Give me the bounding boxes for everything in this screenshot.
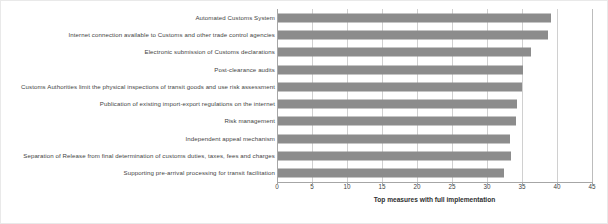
- x-tick-mark: [277, 182, 278, 185]
- bar-row: Supporting pre-arrival processing for tr…: [1, 165, 608, 182]
- category-label: Post-clearance audits: [214, 66, 275, 72]
- bar: [278, 152, 511, 161]
- category-label: Internet connection available to Customs…: [69, 32, 275, 38]
- bar-row: Post-clearance audits: [1, 61, 608, 78]
- x-tick-mark: [312, 182, 313, 185]
- bar: [278, 100, 517, 109]
- x-axis-tick-labels: 051015202530354045: [277, 184, 592, 196]
- bar-row: Customs Authorities limit the physical i…: [1, 78, 608, 95]
- category-label: Independent appeal mechanism: [185, 136, 275, 142]
- bar: [278, 48, 531, 57]
- bar: [278, 13, 551, 22]
- bar-row: Publication of existing import-export re…: [1, 95, 608, 112]
- x-tick-mark: [382, 182, 383, 185]
- bar-row: Separation of Release from final determi…: [1, 147, 608, 164]
- x-tick-mark: [522, 182, 523, 185]
- category-label: Supporting pre-arrival processing for tr…: [124, 170, 275, 176]
- bar: [278, 65, 523, 74]
- category-label: Automated Customs System: [195, 15, 275, 21]
- bar-row: Internet connection available to Customs…: [1, 26, 608, 43]
- x-tick-mark: [452, 182, 453, 185]
- bar-row: Independent appeal mechanism: [1, 130, 608, 147]
- category-label: Risk management: [224, 118, 275, 124]
- bar: [278, 82, 522, 91]
- bar-row: Electronic submission of Customs declara…: [1, 44, 608, 61]
- category-label: Customs Authorities limit the physical i…: [21, 84, 275, 90]
- x-tick-mark: [417, 182, 418, 185]
- bar-row: Automated Customs System: [1, 9, 608, 26]
- bar: [278, 117, 516, 126]
- bar-row: Risk management: [1, 113, 608, 130]
- bar: [278, 134, 510, 143]
- x-tick-mark: [347, 182, 348, 185]
- category-label: Electronic submission of Customs declara…: [145, 49, 276, 55]
- x-tick-mark: [487, 182, 488, 185]
- x-axis-line: [277, 182, 593, 183]
- category-label: Separation of Release from final determi…: [23, 153, 275, 159]
- bar-rows: Automated Customs SystemInternet connect…: [1, 9, 608, 182]
- x-tick-mark: [557, 182, 558, 185]
- bar: [278, 169, 504, 178]
- bar: [278, 30, 548, 39]
- category-label: Publication of existing import-export re…: [100, 101, 275, 107]
- bar-chart-figure: Automated Customs SystemInternet connect…: [0, 0, 608, 224]
- x-tick-mark: [592, 182, 593, 185]
- x-axis-title: Top measures with full implementation: [277, 197, 592, 204]
